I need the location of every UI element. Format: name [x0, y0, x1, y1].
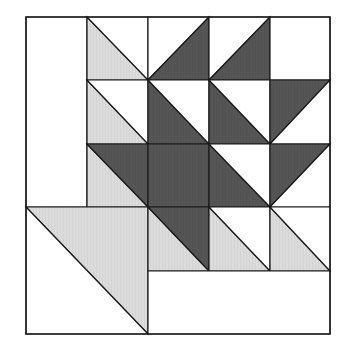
quilt-pieces [26, 17, 330, 334]
bottom-white-rect [148, 271, 330, 334]
quilt-block-diagram [0, 0, 343, 350]
r2c2-dark-square-hatch [148, 144, 209, 207]
r0c4-white-square [270, 17, 330, 80]
tall-white-rect [26, 17, 87, 207]
